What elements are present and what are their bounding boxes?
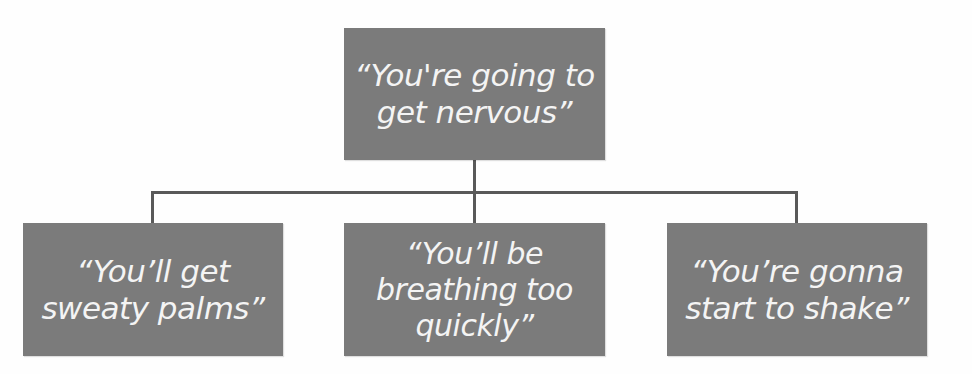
child-node-sweaty-palms: “You’ll get sweaty palms”	[23, 223, 283, 356]
root-node-text: “You're going to get nervous”	[354, 57, 595, 131]
child-2-line-1: “You’ll be	[376, 236, 573, 272]
child-1-line-1: “You’ll get	[41, 253, 264, 290]
child-node-text: “You’re gonna start to shake”	[685, 253, 908, 327]
child-1-line-2: sweaty palms”	[41, 290, 264, 327]
child-3-line-1: “You’re gonna	[685, 253, 908, 290]
root-line-2: get nervous”	[354, 94, 595, 131]
child-3-line-2: start to shake”	[685, 290, 908, 327]
connector-drop-right	[795, 191, 798, 223]
child-node-breathing: “You’ll be breathing too quickly”	[344, 223, 605, 356]
root-line-1: “You're going to	[354, 57, 595, 94]
connector-drop-center	[473, 191, 476, 223]
hierarchy-diagram: “You're going to get nervous” “You’ll ge…	[0, 0, 972, 374]
child-2-line-3: quickly”	[376, 308, 573, 344]
child-node-shake: “You’re gonna start to shake”	[667, 223, 927, 356]
root-node: “You're going to get nervous”	[344, 28, 605, 160]
connector-drop-left	[151, 191, 154, 223]
child-node-text: “You’ll get sweaty palms”	[41, 253, 264, 327]
child-2-line-2: breathing too	[376, 272, 573, 308]
child-node-text: “You’ll be breathing too quickly”	[376, 236, 573, 344]
connector-root-trunk	[473, 160, 476, 193]
